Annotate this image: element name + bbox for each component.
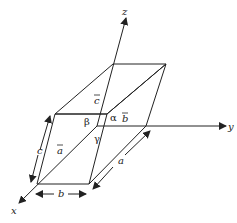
- top-face: [55, 64, 166, 114]
- length-a-label: a: [118, 155, 124, 166]
- svg-text:c: c: [94, 95, 100, 106]
- angle-gamma-label: γ: [94, 133, 100, 144]
- top-diagonal-edge: [107, 64, 166, 114]
- vector-a-label: a: [57, 145, 63, 156]
- back-right-edge: [146, 64, 166, 126]
- z-axis-label: z: [121, 6, 128, 17]
- y-axis-label: y: [227, 121, 234, 132]
- c-length-arrow-2: [31, 155, 38, 182]
- angle-alpha-label: α: [110, 112, 117, 123]
- angle-beta-label: β: [84, 116, 90, 127]
- svg-text:a: a: [57, 145, 63, 156]
- vector-c-label: c: [94, 95, 100, 106]
- length-c-label: c: [37, 145, 43, 156]
- unit-cell-diagram: z y x c b a β α γ c b a: [0, 0, 237, 223]
- svg-text:b: b: [122, 113, 128, 124]
- length-b-label: b: [58, 188, 64, 199]
- x-axis-label: x: [11, 205, 17, 216]
- vector-b-label: b: [122, 113, 128, 124]
